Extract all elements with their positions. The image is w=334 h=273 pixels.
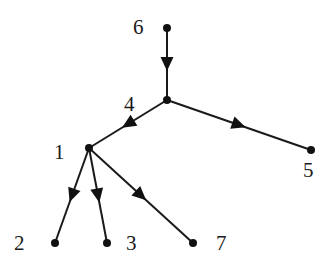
nodes-layer (51, 24, 315, 247)
node-4 (163, 96, 171, 104)
arrowhead-icon (90, 187, 103, 202)
node-3 (103, 239, 111, 247)
node-label-4: 4 (124, 92, 135, 116)
node-5 (307, 146, 315, 154)
node-7 (189, 239, 197, 247)
node-label-6: 6 (133, 15, 144, 39)
arrowhead-icon (161, 57, 174, 71)
arrowhead-icon (122, 115, 137, 128)
tree-diagram: 6415237 (0, 0, 334, 273)
node-1 (85, 144, 93, 152)
node-label-5: 5 (303, 158, 314, 182)
node-6 (163, 24, 171, 32)
node-label-1: 1 (54, 140, 65, 164)
edges-layer (55, 28, 311, 243)
node-2 (51, 239, 59, 247)
arrowhead-icon (230, 117, 245, 129)
node-label-2: 2 (14, 231, 25, 255)
node-label-7: 7 (216, 231, 227, 255)
node-label-3: 3 (126, 231, 137, 255)
arrowhead-icon (68, 187, 80, 202)
